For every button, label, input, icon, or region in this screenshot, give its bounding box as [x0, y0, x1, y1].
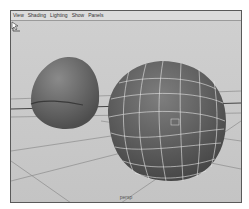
menu-shading[interactable]: Shading	[28, 11, 46, 20]
mouse-cursor-icon	[11, 21, 19, 31]
scene-render	[11, 21, 241, 202]
modeling-panel: View Shading Lighting Show Panels	[10, 10, 242, 203]
left-sphere	[31, 57, 99, 129]
menu-view[interactable]: View	[13, 11, 24, 20]
menu-show[interactable]: Show	[72, 11, 85, 20]
menu-lighting[interactable]: Lighting	[50, 11, 68, 20]
camera-label: persp	[120, 194, 133, 200]
3d-viewport[interactable]: persp	[11, 21, 241, 202]
menu-panels[interactable]: Panels	[88, 11, 103, 20]
right-sphere	[108, 61, 226, 181]
panel-menubar: View Shading Lighting Show Panels	[11, 11, 241, 21]
